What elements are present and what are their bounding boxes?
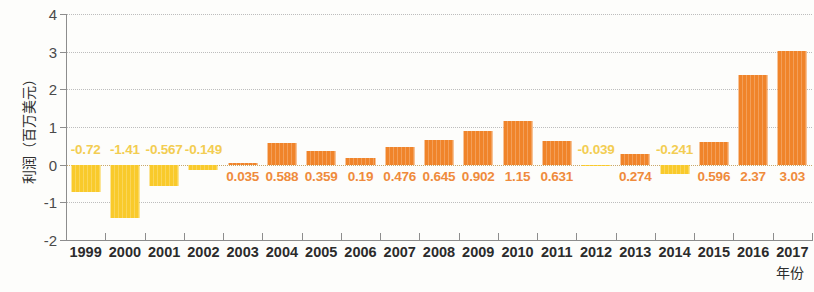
bar-value-label: 0.596: [697, 169, 730, 184]
x-axis-category-2012: 2012: [580, 244, 612, 260]
x-tick-mark: [223, 233, 224, 241]
bar-column: 0.631: [537, 14, 576, 240]
bar-value-label: 2.37: [740, 169, 765, 184]
bar-column: -0.72: [66, 14, 105, 240]
bar[interactable]: [503, 121, 532, 164]
x-tick-mark: [262, 233, 263, 241]
bar-value-label: 1.15: [505, 169, 530, 184]
x-axis-category-1999: 1999: [69, 244, 101, 260]
y-tick-label: 4: [49, 6, 57, 23]
bar-column: -0.149: [184, 14, 223, 240]
bar[interactable]: [307, 151, 336, 165]
bar-column: -0.567: [145, 14, 184, 240]
bar[interactable]: [582, 165, 611, 167]
bar-value-label: -0.149: [185, 142, 222, 157]
x-tick-mark: [184, 233, 185, 241]
x-axis-ticks: [66, 233, 812, 243]
y-tick-label: 0: [49, 156, 57, 173]
bar-column: 0.645: [419, 14, 458, 240]
x-axis-category-2009: 2009: [462, 244, 494, 260]
x-axis-category-2010: 2010: [501, 244, 533, 260]
bar[interactable]: [228, 163, 257, 165]
plot-area: 43210-1-2 -0.72-1.41-0.567-0.1490.0350.5…: [66, 14, 812, 240]
y-tick-label: 1: [49, 119, 57, 136]
bar-value-label: 0.19: [348, 169, 373, 184]
x-tick-mark: [616, 233, 617, 241]
x-axis-category-2000: 2000: [109, 244, 141, 260]
bar[interactable]: [71, 165, 100, 192]
bar-value-label: -0.039: [577, 142, 614, 157]
bar[interactable]: [699, 142, 728, 164]
y-tick-label: -1: [44, 194, 57, 211]
bar[interactable]: [110, 165, 139, 218]
bar[interactable]: [778, 51, 807, 165]
x-axis-category-2013: 2013: [619, 244, 651, 260]
x-axis-category-2015: 2015: [698, 244, 730, 260]
x-axis-category-2011: 2011: [541, 244, 572, 260]
bar[interactable]: [150, 165, 179, 186]
bar-value-label: 0.588: [266, 169, 299, 184]
bar[interactable]: [464, 131, 493, 165]
bar[interactable]: [660, 165, 689, 174]
bar-column: 0.476: [380, 14, 419, 240]
x-tick-mark: [459, 233, 460, 241]
x-tick-mark: [380, 233, 381, 241]
bar-value-label: 0.631: [540, 169, 573, 184]
bar[interactable]: [621, 154, 650, 164]
bar[interactable]: [424, 140, 453, 164]
bar-value-label: 0.476: [383, 169, 416, 184]
x-tick-mark: [498, 233, 499, 241]
y-tick-label: -2: [44, 232, 57, 249]
bar-value-label: 0.645: [423, 169, 456, 184]
x-axis-category-2005: 2005: [305, 244, 337, 260]
bar[interactable]: [346, 158, 375, 165]
bar-value-label: 0.274: [619, 169, 652, 184]
bar-value-label: -0.72: [71, 142, 101, 157]
bar-column: 0.359: [302, 14, 341, 240]
bar[interactable]: [189, 165, 218, 171]
bar-value-label: -0.567: [146, 142, 183, 157]
x-tick-mark: [733, 233, 734, 241]
bar-column: 0.035: [223, 14, 262, 240]
x-axis-category-2003: 2003: [227, 244, 259, 260]
x-axis-category-2014: 2014: [658, 244, 690, 260]
x-axis-category-2008: 2008: [423, 244, 455, 260]
bar-series: -0.72-1.41-0.567-0.1490.0350.5880.3590.1…: [66, 14, 812, 240]
bar-value-label: 0.035: [226, 169, 259, 184]
bar-value-label: 3.03: [780, 169, 805, 184]
x-axis-labels: 1999200020012002200320042005200620072008…: [66, 244, 812, 266]
y-tick-label: 2: [49, 81, 57, 98]
bar[interactable]: [267, 143, 296, 165]
bar-value-label: -1.41: [110, 142, 140, 157]
bar-column: -1.41: [105, 14, 144, 240]
y-axis-title: 利润（百万美元）: [18, 38, 38, 218]
x-tick-mark: [66, 233, 67, 241]
x-tick-mark: [302, 233, 303, 241]
bar[interactable]: [385, 147, 414, 165]
x-tick-mark: [537, 233, 538, 241]
y-tick-label: 3: [49, 43, 57, 60]
x-axis-category-2001: 2001: [148, 244, 180, 260]
x-tick-mark: [105, 233, 106, 241]
bar-column: 0.274: [616, 14, 655, 240]
x-tick-mark: [145, 233, 146, 241]
x-tick-mark: [419, 233, 420, 241]
x-tick-mark: [812, 233, 813, 241]
x-tick-mark: [341, 233, 342, 241]
bar-chart: 利润（百万美元） 年份 43210-1-2 -0.72-1.41-0.567-0…: [0, 0, 814, 292]
bar-value-label: 0.902: [462, 169, 495, 184]
x-axis-category-2002: 2002: [187, 244, 219, 260]
bar-value-label: -0.241: [656, 142, 693, 157]
bar-column: 3.03: [773, 14, 812, 240]
bar-column: 1.15: [498, 14, 537, 240]
bar-column: 0.596: [694, 14, 733, 240]
bar-column: 2.37: [733, 14, 772, 240]
x-tick-mark: [773, 233, 774, 241]
bar[interactable]: [542, 141, 571, 165]
x-tick-mark: [655, 233, 656, 241]
bar[interactable]: [739, 75, 768, 164]
x-axis-category-2006: 2006: [344, 244, 376, 260]
x-axis-category-2004: 2004: [266, 244, 298, 260]
bar-column: 0.19: [341, 14, 380, 240]
bar-value-label: 0.359: [305, 169, 338, 184]
